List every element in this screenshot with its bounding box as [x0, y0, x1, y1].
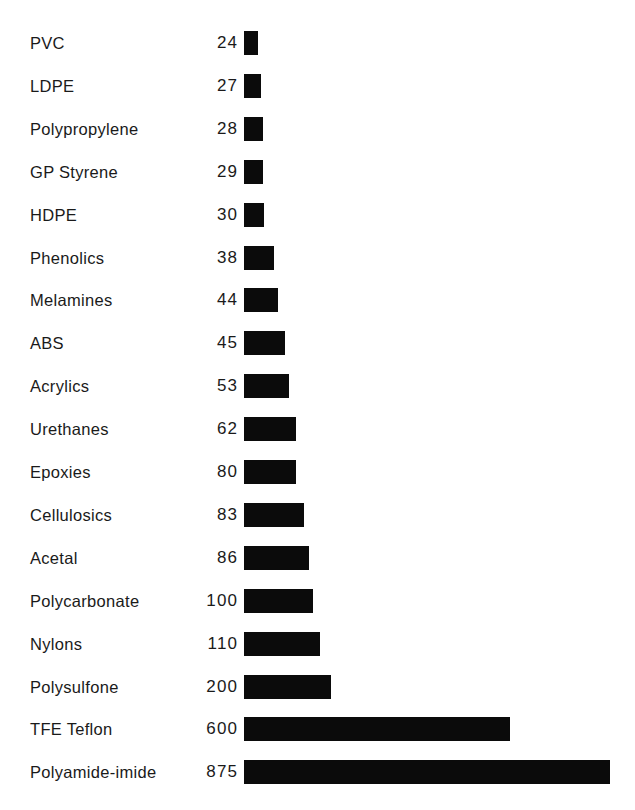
bar-category-label: Polysulfone	[30, 675, 119, 699]
bar-rect	[244, 589, 313, 613]
chart-row: GP Styrene29	[0, 160, 635, 184]
bar-category-label: Polypropylene	[30, 117, 138, 141]
chart-row: LDPE27	[0, 74, 635, 98]
bar-rect	[244, 717, 510, 741]
bar-rect	[244, 203, 264, 227]
bar-category-label: Acrylics	[30, 374, 89, 398]
bar-value-label: 38	[140, 246, 238, 270]
bar-value-label: 29	[140, 160, 238, 184]
bar-rect	[244, 374, 289, 398]
bar-category-label: Polycarbonate	[30, 589, 139, 613]
bar-value-label: 27	[140, 74, 238, 98]
bar-category-label: Acetal	[30, 546, 78, 570]
bar-value-label: 86	[140, 546, 238, 570]
chart-row: TFE Teflon600	[0, 717, 635, 741]
bar-category-label: TFE Teflon	[30, 717, 112, 741]
bar-value-label: 100	[140, 589, 238, 613]
bar-rect	[244, 546, 309, 570]
bar-chart-figure: PVC24LDPE27Polypropylene28GP Styrene29HD…	[0, 0, 635, 810]
chart-row: Epoxies80	[0, 460, 635, 484]
bar-category-label: Nylons	[30, 632, 82, 656]
bar-category-label: Epoxies	[30, 460, 91, 484]
bar-rect	[244, 246, 274, 270]
bar-rect	[244, 331, 285, 355]
bar-category-label: LDPE	[30, 74, 74, 98]
chart-row: Phenolics38	[0, 246, 635, 270]
chart-row: Polyamide-imide875	[0, 760, 635, 784]
bar-rect	[244, 760, 610, 784]
bar-rect	[244, 31, 258, 55]
chart-row: Acrylics53	[0, 374, 635, 398]
bar-category-label: ABS	[30, 331, 64, 355]
bar-rect	[244, 117, 263, 141]
bar-rect	[244, 160, 263, 184]
bar-rect	[244, 417, 296, 441]
chart-row: Cellulosics83	[0, 503, 635, 527]
chart-row: ABS45	[0, 331, 635, 355]
bar-rect	[244, 288, 278, 312]
bar-value-label: 80	[140, 460, 238, 484]
bar-category-label: PVC	[30, 31, 65, 55]
bar-category-label: HDPE	[30, 203, 77, 227]
bar-rect	[244, 632, 320, 656]
bar-value-label: 110	[140, 632, 238, 656]
bar-value-label: 45	[140, 331, 238, 355]
bar-category-label: Phenolics	[30, 246, 104, 270]
bar-value-label: 875	[140, 760, 238, 784]
chart-row: Polysulfone200	[0, 675, 635, 699]
chart-row: Polycarbonate100	[0, 589, 635, 613]
bar-rect	[244, 460, 296, 484]
bar-category-label: Melamines	[30, 288, 112, 312]
chart-row: Nylons110	[0, 632, 635, 656]
bar-rect	[244, 675, 331, 699]
bar-rect	[244, 503, 304, 527]
bar-category-label: Polyamide-imide	[30, 760, 156, 784]
bar-value-label: 600	[140, 717, 238, 741]
chart-row: PVC24	[0, 31, 635, 55]
chart-row: Polypropylene28	[0, 117, 635, 141]
chart-row: Acetal86	[0, 546, 635, 570]
bar-category-label: GP Styrene	[30, 160, 118, 184]
chart-row: Melamines44	[0, 288, 635, 312]
bar-value-label: 53	[140, 374, 238, 398]
chart-rows-container: PVC24LDPE27Polypropylene28GP Styrene29HD…	[0, 0, 635, 810]
bar-value-label: 62	[140, 417, 238, 441]
bar-value-label: 200	[140, 675, 238, 699]
bar-value-label: 44	[140, 288, 238, 312]
bar-value-label: 24	[140, 31, 238, 55]
bar-category-label: Cellulosics	[30, 503, 112, 527]
chart-row: Urethanes62	[0, 417, 635, 441]
bar-value-label: 28	[140, 117, 238, 141]
bar-value-label: 30	[140, 203, 238, 227]
bar-rect	[244, 74, 261, 98]
bar-value-label: 83	[140, 503, 238, 527]
bar-category-label: Urethanes	[30, 417, 109, 441]
chart-row: HDPE30	[0, 203, 635, 227]
